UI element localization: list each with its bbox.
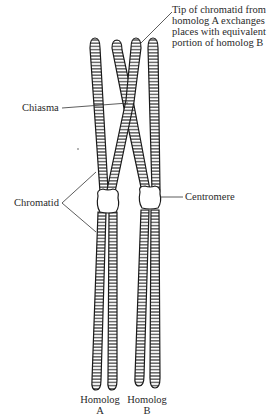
centromere-a bbox=[97, 189, 118, 213]
homolog-a-label: Homolog A bbox=[80, 394, 120, 416]
tip-note-label: Tip of chromatid from homolog A exchange… bbox=[172, 4, 266, 48]
chromatid-label: Chromatid bbox=[14, 197, 59, 208]
centromere-label: Centromere bbox=[185, 191, 235, 202]
chromatid-leader-upper bbox=[62, 172, 96, 203]
chromosome-diagram bbox=[0, 0, 269, 419]
chromatid-b-left-lower bbox=[135, 210, 149, 386]
stray-dot bbox=[77, 148, 79, 150]
homolog-b-label: Homolog B bbox=[127, 394, 167, 416]
chromatid-b-right-upper bbox=[148, 38, 160, 191]
chromatid-leader-lower bbox=[62, 203, 96, 232]
chromatid-b-right-lower bbox=[150, 210, 160, 388]
centromere-b bbox=[139, 186, 160, 209]
chromatid-a-left-upper bbox=[90, 38, 108, 192]
chiasma-label: Chiasma bbox=[22, 102, 59, 113]
chromatid-a-right-lower bbox=[108, 212, 117, 390]
chromatid-a-left-lower bbox=[92, 212, 106, 390]
